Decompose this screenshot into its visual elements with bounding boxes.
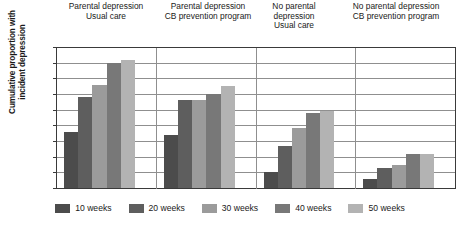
bar (192, 100, 206, 188)
bar (320, 111, 334, 188)
legend-item-3: 40 weeks (275, 204, 331, 213)
bar (64, 132, 78, 188)
bar-chart-figure: Parental depressionUsual careParental de… (0, 0, 460, 233)
bar (121, 60, 135, 188)
group-header-line: CB prevention program (158, 12, 258, 22)
group-header-0: Parental depressionUsual care (56, 2, 156, 21)
legend-swatch-icon (129, 204, 144, 213)
chart-legend: 10 weeks20 weeks30 weeks40 weeks50 weeks (0, 199, 460, 217)
y-axis-title-line: incident depression (18, 0, 28, 132)
legend-item-4: 50 weeks (348, 204, 404, 213)
bar (406, 154, 420, 188)
bar (92, 85, 106, 188)
plot-area: 00.050.10.150.20.250.30.350.40.45 (56, 48, 455, 189)
group-header-line: Usual care (262, 21, 326, 31)
group-separator (256, 48, 257, 189)
y-tick-mark (53, 172, 57, 173)
legend-swatch-icon (55, 204, 70, 213)
bar (178, 100, 192, 188)
bar (363, 179, 377, 188)
bar (164, 135, 178, 188)
group-separator (455, 48, 456, 189)
bar (377, 168, 391, 188)
y-axis-title: Cumulative proportion withincident depre… (8, 0, 28, 132)
bar (78, 97, 92, 188)
group-header-line: Usual care (56, 12, 156, 22)
group-separator (156, 48, 157, 189)
group-header-3: No parental depressionCB prevention prog… (336, 2, 456, 21)
legend-label: 10 weeks (75, 204, 111, 213)
legend-label: 50 weeks (368, 204, 404, 213)
bar (264, 172, 278, 188)
bar (392, 165, 406, 189)
bar (278, 146, 292, 188)
legend-label: 20 weeks (149, 204, 185, 213)
bar (221, 86, 235, 188)
legend-swatch-icon (348, 204, 363, 213)
legend-item-1: 20 weeks (129, 204, 185, 213)
legend-label: 40 weeks (295, 204, 331, 213)
legend-item-0: 10 weeks (55, 204, 111, 213)
y-tick-mark (53, 110, 57, 111)
bar (206, 94, 220, 188)
y-tick-mark (53, 125, 57, 126)
bar (107, 63, 121, 188)
bar (292, 128, 306, 188)
group-header-2: No parentaldepressionUsual care (262, 2, 326, 31)
y-tick-mark (53, 78, 57, 79)
y-tick-mark (53, 63, 57, 64)
y-tick-mark (53, 141, 57, 142)
legend-swatch-icon (275, 204, 290, 213)
bar (306, 113, 320, 188)
bar (420, 154, 434, 188)
group-header-line: CB prevention program (336, 12, 456, 22)
y-tick-mark (53, 188, 57, 189)
group-separator (355, 48, 356, 189)
legend-label: 30 weeks (222, 204, 258, 213)
gridline (57, 47, 456, 48)
legend-swatch-icon (202, 204, 217, 213)
group-header-1: Parental depressionCB prevention program (158, 2, 258, 21)
y-axis-title-line: Cumulative proportion with (8, 0, 18, 132)
legend-item-2: 30 weeks (202, 204, 258, 213)
y-tick-mark (53, 94, 57, 95)
y-tick-mark (53, 47, 57, 48)
y-tick-mark (53, 157, 57, 158)
group-headers: Parental depressionUsual careParental de… (0, 0, 460, 40)
